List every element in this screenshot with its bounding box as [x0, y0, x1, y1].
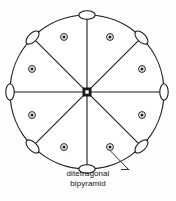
pole-p2 [107, 34, 114, 41]
figure-container: ditetragonal bipyramid [0, 0, 176, 201]
pole-p4 [139, 66, 146, 73]
caption-line-1: ditetragonal [0, 169, 176, 179]
pole-p5 [29, 112, 36, 119]
pole-p3 [29, 66, 36, 73]
pole-p8 [107, 144, 114, 151]
twofold-axis-north [79, 11, 95, 19]
twofold-axis-east [160, 84, 168, 100]
pole-p7 [61, 144, 68, 151]
fourfold-axis-center-symbol [83, 88, 92, 97]
pole-p1 [61, 34, 68, 41]
pole-p6 [139, 112, 146, 119]
twofold-axis-west [6, 84, 14, 100]
caption-line-2: bipyramid [0, 179, 176, 189]
